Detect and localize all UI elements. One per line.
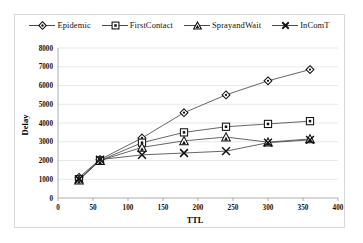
gridlines [58, 48, 338, 201]
y-tick-label: 5000 [39, 101, 54, 109]
y-tick-label: 6000 [39, 82, 54, 90]
series-lines [79, 70, 310, 181]
chart-plot-area: 050100150200250300350400 010002000300040… [0, 0, 363, 243]
data-point-epidemic [264, 77, 272, 85]
y-axis-label: Delay [20, 114, 30, 136]
series-markers [75, 66, 315, 184]
data-point-epidemic [222, 91, 230, 99]
y-tick-labels: 010002000300040005000600070008000 [39, 45, 54, 203]
x-tick-label: 300 [263, 204, 274, 212]
x-tick-label: 250 [228, 204, 239, 212]
x-tick-label: 100 [123, 204, 134, 212]
x-tick-label: 200 [193, 204, 204, 212]
line-chart: 050100150200250300350400 010002000300040… [0, 0, 363, 243]
data-point-firstcontact [180, 129, 187, 136]
y-tick-label: 7000 [39, 63, 54, 71]
x-tick-label: 350 [298, 204, 309, 212]
series-line-sprayandwait [79, 137, 310, 180]
data-point-firstcontact [306, 118, 313, 125]
x-tick-labels: 050100150200250300350400 [56, 204, 344, 212]
series-line-incomt [79, 140, 310, 179]
y-tick-label: 8000 [39, 45, 54, 53]
y-tick-label: 0 [49, 195, 53, 203]
x-axis-label: TTL [187, 216, 204, 225]
y-tick-label: 2000 [39, 157, 54, 165]
x-tick-label: 400 [333, 204, 344, 212]
data-point-epidemic [180, 109, 188, 117]
x-tick-label: 150 [158, 204, 169, 212]
y-tick-label: 4000 [39, 120, 54, 128]
y-tick-label: 3000 [39, 138, 54, 146]
x-tick-label: 50 [89, 204, 97, 212]
data-point-firstcontact [222, 123, 229, 130]
y-tick-label: 1000 [39, 176, 54, 184]
x-tick-label: 0 [56, 204, 60, 212]
data-point-firstcontact [264, 120, 271, 127]
series-line-firstcontact [79, 121, 310, 179]
